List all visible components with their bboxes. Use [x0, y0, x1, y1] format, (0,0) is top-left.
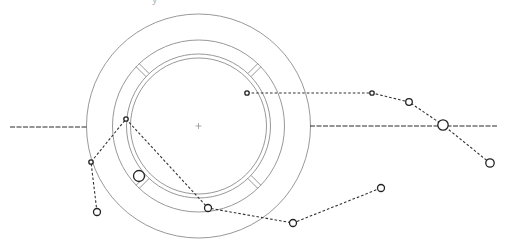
node-5-circle-icon[interactable]: [205, 205, 212, 212]
segment-divider-1: [251, 175, 261, 185]
node-11-circle-icon[interactable]: [438, 120, 448, 130]
node-8-circle-icon[interactable]: [245, 91, 249, 95]
horizontal-axis-line: [10, 126, 497, 127]
diagram-canvas: y: [0, 0, 507, 248]
center-crosshair-icon: [196, 123, 202, 129]
node-10-circle-icon[interactable]: [406, 99, 413, 106]
dotted-paths: [91, 93, 490, 223]
segment-divider-3: [136, 67, 146, 77]
segment-divider-4: [248, 64, 258, 74]
node-7-circle-icon[interactable]: [378, 185, 385, 192]
node-1-circle-icon[interactable]: [94, 209, 101, 216]
node-2-circle-icon[interactable]: [89, 160, 93, 164]
segment-divider-4: [251, 67, 261, 77]
path-nodes: [89, 91, 494, 227]
path-b: [247, 93, 490, 163]
diagram-svg: [0, 0, 507, 248]
path-a: [91, 119, 381, 223]
node-4-circle-icon[interactable]: [134, 171, 145, 182]
node-12-circle-icon[interactable]: [486, 159, 494, 167]
segment-divider-1: [248, 178, 258, 188]
node-9-circle-icon[interactable]: [370, 91, 374, 95]
node-6-circle-icon[interactable]: [290, 220, 297, 227]
node-3-circle-icon[interactable]: [124, 117, 128, 121]
segment-divider-3: [139, 64, 149, 74]
